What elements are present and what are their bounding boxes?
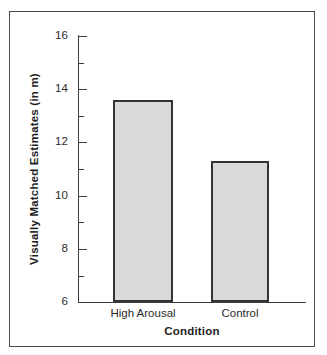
- y-axis-tick-minor: [79, 222, 84, 223]
- y-axis-tick-major: [79, 36, 87, 37]
- x-axis-title: Condition: [78, 325, 306, 337]
- y-axis-tick-major: [79, 89, 87, 90]
- x-axis-line: [78, 302, 306, 303]
- y-axis-tick-major: [79, 302, 87, 303]
- figure-container: 16 14 12 10 8 6 High Arousal Control Con…: [0, 0, 327, 355]
- plot-area: 16 14 12 10 8 6 High Arousal Control Con…: [0, 0, 327, 355]
- y-axis-tick-minor: [79, 63, 84, 64]
- x-axis-tick-label-control: Control: [200, 307, 280, 320]
- y-axis-tick-major: [79, 196, 87, 197]
- bar-high-arousal[interactable]: [113, 100, 173, 302]
- y-axis-tick-major: [79, 142, 87, 143]
- x-axis-tick-label-high-arousal: High Arousal: [93, 307, 193, 320]
- y-axis-tick-major: [79, 249, 87, 250]
- y-axis-tick-minor: [79, 169, 84, 170]
- y-axis-tick-minor: [79, 116, 84, 117]
- bar-control[interactable]: [211, 161, 269, 302]
- y-axis-title: Visually Matched Estimates (in m): [28, 29, 40, 309]
- y-axis-tick-minor: [79, 276, 84, 277]
